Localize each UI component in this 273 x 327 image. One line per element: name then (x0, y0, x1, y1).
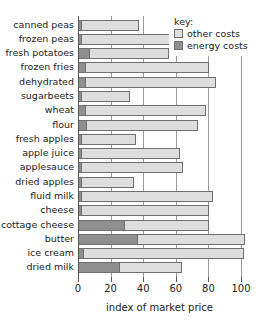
value-axis-line (78, 16, 79, 277)
bar-segment-energy-costs (78, 262, 120, 273)
category-label-fluid-milk: fluid milk (30, 190, 74, 201)
category-label-frozen-fries: frozen fries (21, 61, 74, 72)
bar-segment-other-costs (124, 220, 210, 231)
bar-row (78, 220, 241, 231)
legend-swatch-energy-costs (174, 41, 183, 50)
x-tick-label-0: 0 (75, 283, 81, 294)
x-tick-100 (241, 277, 242, 282)
bar-segment-other-costs (81, 191, 212, 202)
market-price-bar-chart: canned peasfrozen peasfresh potatoesfroz… (0, 0, 273, 327)
category-label-wheat: wheat (45, 104, 74, 115)
bar-segment-other-costs (83, 248, 244, 259)
category-label-fresh-potatoes: fresh potatoes (5, 47, 74, 58)
x-tick-label-60: 60 (169, 283, 182, 294)
x-axis-title: index of market price (78, 302, 241, 313)
bar-row (78, 148, 241, 159)
x-tick-label-40: 40 (137, 283, 150, 294)
bar-row (78, 234, 241, 245)
bar-row (78, 77, 241, 88)
x-tick-20 (111, 277, 112, 282)
category-label-canned-peas: canned peas (13, 19, 74, 30)
bar-row (78, 205, 241, 216)
bar-row (78, 248, 241, 259)
category-label-ice-cream: ice cream (27, 247, 74, 258)
bar-segment-other-costs (89, 48, 168, 59)
bar-segment-other-costs (85, 105, 207, 116)
bar-row (78, 62, 241, 73)
x-tick-label-20: 20 (104, 283, 117, 294)
legend-label-other-costs: other costs (187, 28, 240, 39)
bar-row (78, 120, 241, 131)
bar-row (78, 191, 241, 202)
x-tick-80 (208, 277, 209, 282)
category-axis-labels: canned peasfrozen peasfresh potatoesfroz… (0, 18, 74, 275)
category-label-cottage-cheese: cottage cheese (1, 219, 74, 230)
legend-title: key: (174, 16, 269, 27)
x-tick-label-100: 100 (231, 283, 250, 294)
bar-segment-other-costs (81, 34, 170, 45)
bar-segment-other-costs (137, 234, 246, 245)
bar-segment-other-costs (81, 205, 209, 216)
bar-segment-energy-costs (78, 234, 138, 245)
category-label-butter: butter (45, 233, 74, 244)
bar-segment-other-costs (85, 77, 216, 88)
bar-segment-energy-costs (78, 220, 125, 231)
bar-row (78, 162, 241, 173)
category-label-sugarbeets: sugarbeets (21, 90, 74, 101)
category-label-dried-apples: dried apples (15, 176, 74, 187)
bar-segment-other-costs (81, 91, 129, 102)
x-tick-label-80: 80 (202, 283, 215, 294)
bar-segment-other-costs (81, 20, 139, 31)
bar-segment-other-costs (119, 262, 182, 273)
bar-row (78, 134, 241, 145)
legend-swatch-other-costs (174, 29, 183, 38)
category-label-dried-milk: dried milk (26, 261, 74, 272)
category-label-frozen-peas: frozen peas (19, 33, 74, 44)
legend-item-energy-costs: energy costs (174, 40, 269, 51)
x-tick-0 (78, 277, 79, 282)
bar-segment-other-costs (86, 120, 198, 131)
category-label-flour: flour (52, 119, 74, 130)
bar-segment-other-costs (81, 148, 180, 159)
bar-segment-other-costs (85, 62, 210, 73)
bar-row (78, 177, 241, 188)
x-tick-60 (176, 277, 177, 282)
category-label-cheese: cheese (40, 204, 74, 215)
bar-row (78, 105, 241, 116)
category-label-applesauce: applesauce (20, 161, 74, 172)
plot-area (78, 18, 241, 275)
bar-segment-other-costs (81, 177, 134, 188)
category-label-fresh-apples: fresh apples (16, 133, 74, 144)
bar-row (78, 91, 241, 102)
chart-legend: key: other costs energy costs (169, 14, 269, 56)
category-label-dehydrated: dehydrated (19, 76, 74, 87)
bar-row (78, 262, 241, 273)
bar-segment-other-costs (81, 134, 136, 145)
x-tick-40 (143, 277, 144, 282)
legend-label-energy-costs: energy costs (187, 40, 248, 51)
legend-item-other-costs: other costs (174, 28, 269, 39)
category-label-apple-juice: apple juice (22, 147, 74, 158)
bar-segment-other-costs (81, 162, 183, 173)
